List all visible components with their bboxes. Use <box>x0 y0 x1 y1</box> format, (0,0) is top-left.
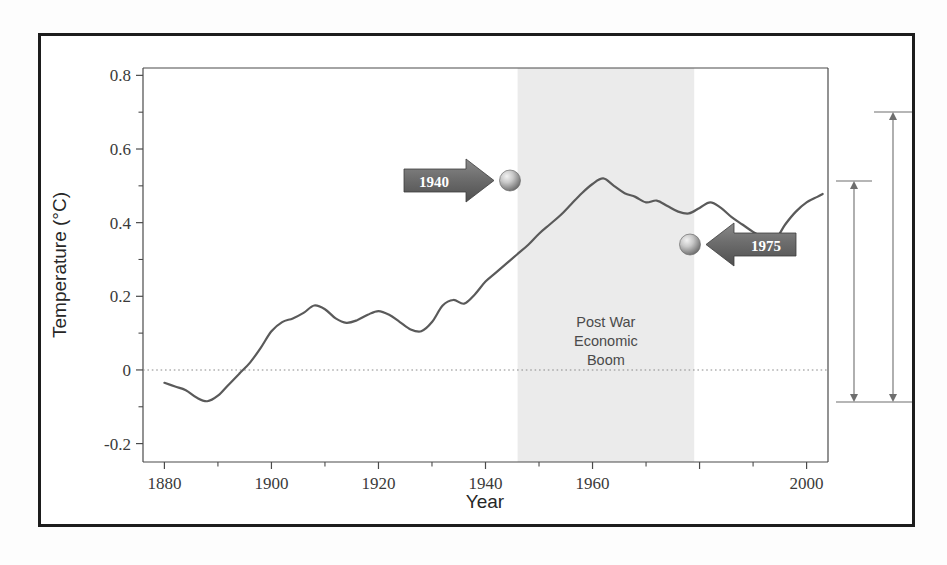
y-tick-label: 0.2 <box>110 287 131 306</box>
annotation-1975-sphere-marker <box>680 234 701 255</box>
figure-container: -0.200.20.40.60.8 1880190019201940196020… <box>0 0 947 565</box>
x-axis-title: Year <box>466 491 505 512</box>
annotation-1975: 1975 <box>680 223 797 266</box>
annotation-1975-label: 1975 <box>751 238 781 254</box>
x-axis-ticks <box>164 462 806 469</box>
post-war-band-label-line: Economic <box>574 333 638 349</box>
y-tick-label: 0.6 <box>110 140 131 159</box>
y-axis-title: Temperature (°C) <box>49 192 70 338</box>
post-war-band-label-line: Post War <box>576 314 635 330</box>
y-axis-minor-ticks <box>139 112 144 407</box>
range-bracket-outer <box>874 112 912 402</box>
annotation-1940-sphere-marker <box>500 170 521 191</box>
x-tick-label: 1960 <box>576 474 610 493</box>
annotation-1940-label: 1940 <box>419 174 449 190</box>
x-tick-label: 1880 <box>147 474 181 493</box>
y-tick-label: 0.8 <box>110 66 131 85</box>
post-war-shaded-band <box>518 68 695 462</box>
post-war-band-label-line: Boom <box>587 352 625 368</box>
temperature-data-line <box>164 178 822 401</box>
temperature-line-chart: -0.200.20.40.60.8 1880190019201940196020… <box>0 0 947 565</box>
y-tick-label: 0.4 <box>110 214 132 233</box>
y-axis-tick-labels: -0.200.20.40.60.8 <box>104 66 131 453</box>
range-bracket-inner <box>836 181 872 402</box>
plot-axes <box>143 68 828 462</box>
y-tick-label: 0 <box>123 361 132 380</box>
x-tick-label: 1900 <box>254 474 288 493</box>
annotation-1940: 1940 <box>404 159 521 202</box>
x-tick-label: 2000 <box>790 474 824 493</box>
annotation-1940-arrow-shape <box>404 159 494 202</box>
y-tick-label: -0.2 <box>104 435 131 454</box>
x-tick-label: 1920 <box>361 474 395 493</box>
